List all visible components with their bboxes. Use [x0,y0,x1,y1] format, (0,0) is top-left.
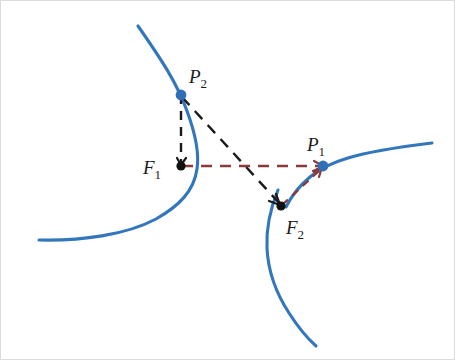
figure-canvas: P2 F1 P1 F2 [1,1,455,360]
point-dot-p1[interactable] [318,161,329,172]
point-dot-p2[interactable] [176,90,187,101]
point-dot-f1[interactable] [176,161,185,170]
figure-background [1,1,455,360]
geometry-figure: P2 F1 P1 F2 [0,0,455,360]
point-dot-f2[interactable] [276,201,285,210]
